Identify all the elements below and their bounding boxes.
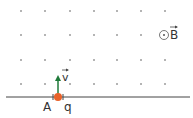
- field-dot: [69, 34, 71, 36]
- field-dot: [164, 83, 166, 85]
- field-dot: [69, 10, 71, 12]
- field-dot: [140, 83, 142, 85]
- field-dot: [116, 34, 118, 36]
- field-dot: [116, 83, 118, 85]
- field-dot: [140, 10, 142, 12]
- field-dot: [93, 10, 95, 12]
- charged-particle: [54, 93, 62, 101]
- field-dot: [116, 10, 118, 12]
- point-a-label: A: [43, 101, 51, 113]
- field-dot: [44, 59, 46, 61]
- field-dot: [93, 34, 95, 36]
- field-dot: [164, 59, 166, 61]
- field-dot: [20, 34, 22, 36]
- diagram-canvas: [0, 0, 193, 118]
- field-dot: [93, 59, 95, 61]
- field-dot: [164, 10, 166, 12]
- field-dot: [116, 59, 118, 61]
- field-dot: [20, 10, 22, 12]
- field-dot: [69, 59, 71, 61]
- field-dot: [44, 34, 46, 36]
- field-dot: [140, 34, 142, 36]
- field-dot: [44, 10, 46, 12]
- field-dot: [20, 83, 22, 85]
- field-dot: [20, 59, 22, 61]
- field-out-of-page-dot: [163, 34, 165, 36]
- field-dot: [140, 59, 142, 61]
- magnetic-field-dot-grid: [20, 10, 166, 85]
- field-label: B: [170, 29, 178, 41]
- field-dot: [44, 83, 46, 85]
- charge-label: q: [64, 101, 72, 113]
- velocity-label: v: [62, 72, 69, 83]
- field-dot: [69, 83, 71, 85]
- field-dot: [93, 83, 95, 85]
- velocity-arrow-head-icon: [55, 75, 61, 81]
